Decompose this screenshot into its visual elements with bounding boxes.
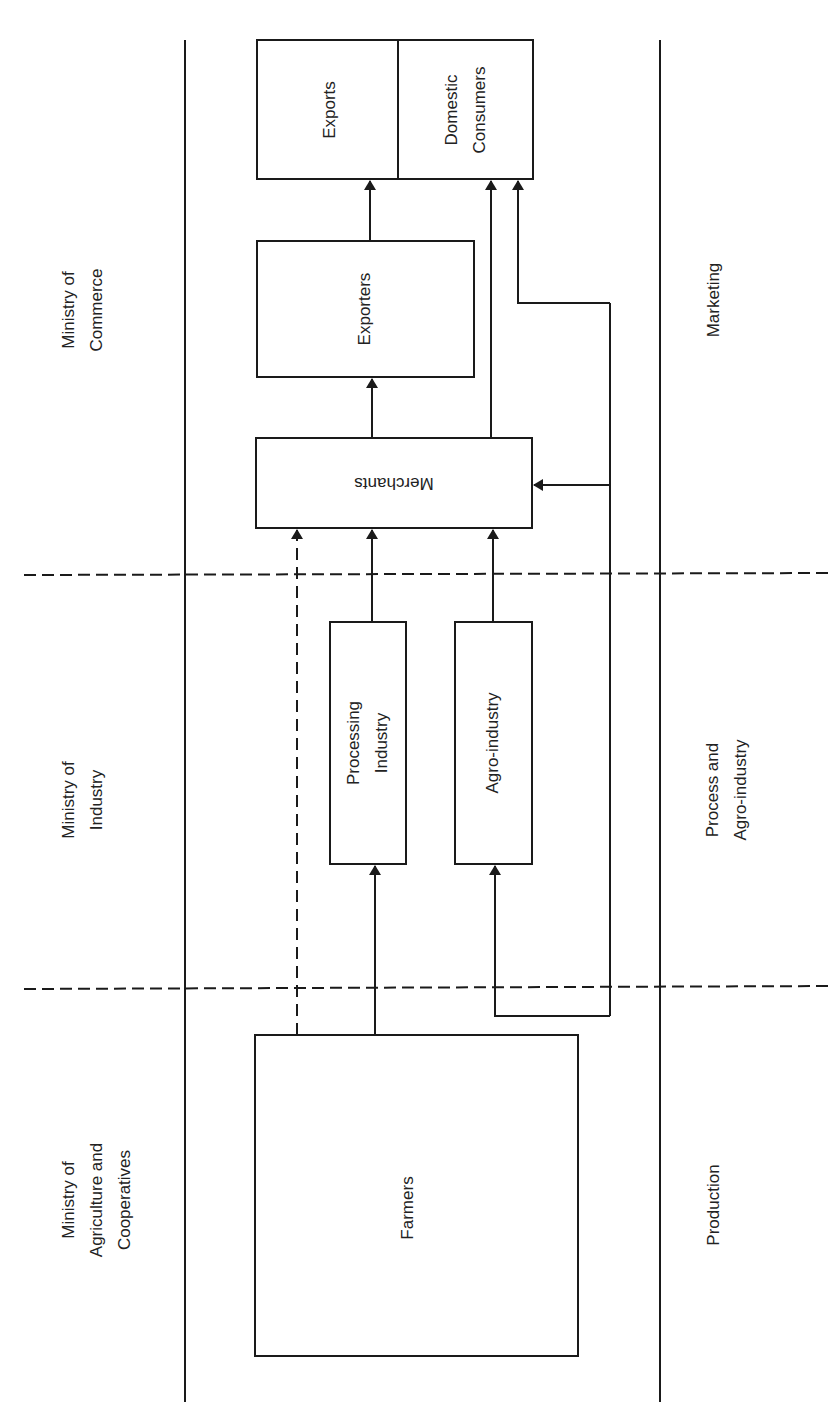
- label-stage-process: Process and Agro-industry: [699, 739, 755, 840]
- label-ministry-commerce: Ministry of Commerce: [55, 268, 111, 351]
- node-exporters: Exporters: [351, 273, 379, 346]
- node-exports: Exports: [316, 81, 344, 139]
- label-ministry-agriculture: Ministry of Agriculture and Cooperatives: [55, 1143, 139, 1257]
- divider-industry-agriculture: [24, 986, 832, 989]
- node-farmers: Farmers: [394, 1176, 422, 1239]
- divider-commerce-industry: [24, 573, 832, 575]
- edge-loop-consumers: [518, 181, 610, 303]
- node-domestic-consumers: Domestic Consumers: [438, 67, 494, 154]
- edge-loop-agro: [495, 866, 610, 1016]
- node-agro-industry: Agro-industry: [479, 692, 507, 793]
- node-merchants: Merchants: [256, 438, 532, 528]
- label-ministry-industry: Ministry of Industry: [55, 761, 111, 838]
- label-stage-production: Production: [700, 1164, 728, 1245]
- label-stage-marketing: Marketing: [700, 263, 728, 338]
- node-processing-industry: Processing Industry: [340, 701, 396, 785]
